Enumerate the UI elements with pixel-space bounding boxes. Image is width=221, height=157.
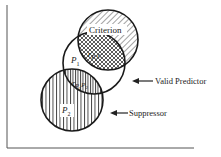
criterion-label: Criterion xyxy=(89,25,122,35)
arrowhead-icon xyxy=(132,78,139,84)
arrowhead-icon xyxy=(110,110,117,116)
suppressor-label: Suppressor xyxy=(129,108,167,118)
p1-sub: 1 xyxy=(77,61,80,67)
valid-predictor-label: Valid Predictor xyxy=(155,76,206,86)
venn-diagram: Criterion P1 rP1C rP1P2 P2 Valid Predict… xyxy=(0,0,221,157)
p2-sub: 2 xyxy=(68,111,71,117)
valid-predictor-annotation: Valid Predictor xyxy=(132,76,206,86)
rp1c-sub3: C xyxy=(97,52,102,60)
suppressor-annotation: Suppressor xyxy=(110,108,167,118)
